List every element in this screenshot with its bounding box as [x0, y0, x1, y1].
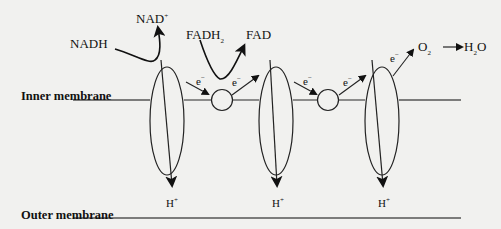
- fad-label: FAD: [246, 28, 271, 41]
- proton-label-3: H+: [378, 197, 390, 209]
- h2o-label: H2O: [464, 40, 486, 57]
- electron-label-4: e−: [343, 76, 352, 88]
- electron-label-2: e−: [232, 76, 241, 88]
- inner-membrane-label: Inner membrane: [21, 90, 111, 103]
- proton-label-2: H+: [272, 197, 284, 209]
- complex-3: [365, 60, 399, 185]
- nad-plus-label: NAD+: [136, 12, 168, 25]
- complex-2: [259, 60, 293, 185]
- electron-label-1: e−: [196, 75, 205, 87]
- carrier-2: [318, 90, 339, 111]
- proton-label-1: H+: [166, 197, 178, 209]
- o2-label: O2: [418, 40, 431, 57]
- complex-1: [150, 60, 184, 185]
- nadh-label: NADH: [70, 37, 108, 50]
- fadh2-label: FADH2: [186, 28, 224, 45]
- carrier-1: [212, 90, 233, 111]
- electron-label-5: e−: [390, 52, 399, 64]
- electron-label-3: e−: [303, 75, 312, 87]
- outer-membrane-label: Outer membrane: [21, 209, 113, 222]
